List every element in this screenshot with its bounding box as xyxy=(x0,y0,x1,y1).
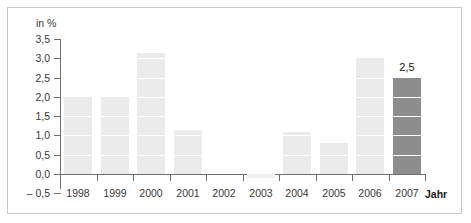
x-axis-tick xyxy=(316,174,317,181)
bar-band-overlay xyxy=(320,143,348,174)
bar xyxy=(101,97,129,174)
bar-band-overlay xyxy=(356,58,384,174)
y-axis-label: 2,0 xyxy=(10,92,50,102)
x-axis-label: 2005 xyxy=(314,188,354,199)
x-axis-tick xyxy=(389,174,390,181)
y-axis-tick xyxy=(54,155,61,156)
y-axis-label: 2,5 xyxy=(10,73,50,83)
bar-chart: in % Jahr 3,53,02,52,01,51,00,50,0– 0,5 … xyxy=(8,8,463,215)
x-axis-label: 1999 xyxy=(95,188,135,199)
x-axis-tick xyxy=(206,174,207,181)
bar xyxy=(356,58,384,174)
y-axis-label: 1,5 xyxy=(10,111,50,121)
bar-band-overlay xyxy=(137,53,165,175)
y-axis-tick xyxy=(54,135,61,136)
x-axis-label: 1998 xyxy=(58,188,98,199)
x-axis-tick xyxy=(133,174,134,181)
x-axis-label: 2007 xyxy=(387,188,427,199)
y-axis-line xyxy=(60,39,61,189)
x-axis-tick xyxy=(425,174,426,181)
bar xyxy=(283,132,311,174)
y-axis-tick xyxy=(54,97,61,98)
y-axis-label: 3,0 xyxy=(10,53,50,63)
y-axis-tick xyxy=(54,39,61,40)
x-axis-tick xyxy=(170,174,171,181)
y-axis-label: – 0,5 xyxy=(10,188,50,198)
chart-frame: in % Jahr 3,53,02,52,01,51,00,50,0– 0,5 … xyxy=(7,7,462,214)
x-axis-label: 2003 xyxy=(241,188,281,199)
y-axis-label: 0,0 xyxy=(10,169,50,179)
bar-value-label: 2,5 xyxy=(384,62,430,73)
x-axis-label: 2000 xyxy=(131,188,171,199)
bar xyxy=(393,78,421,174)
x-axis-title: Jahr xyxy=(425,188,447,200)
x-axis-tick xyxy=(97,174,98,181)
x-axis-tick xyxy=(279,174,280,181)
y-axis-title: in % xyxy=(36,17,56,29)
x-axis-tick xyxy=(243,174,244,181)
bar-band-overlay xyxy=(283,132,311,174)
bar-band-overlay xyxy=(174,130,202,174)
bar-band-overlay xyxy=(101,97,129,174)
bar-band-overlay xyxy=(64,97,92,174)
y-axis-tick xyxy=(54,116,61,117)
y-axis-label: 3,5 xyxy=(10,34,50,44)
bar xyxy=(320,143,348,174)
y-axis-label: 1,0 xyxy=(10,130,50,140)
x-axis-label: 2004 xyxy=(277,188,317,199)
y-axis-tick xyxy=(54,78,61,79)
x-axis-tick xyxy=(60,174,61,181)
bar-band-overlay xyxy=(393,78,421,174)
bar-band-overlay xyxy=(247,174,275,178)
y-axis-label: 0,5 xyxy=(10,150,50,160)
bar xyxy=(174,130,202,174)
bar xyxy=(247,174,275,178)
x-axis-tick xyxy=(352,174,353,181)
x-axis-label: 2002 xyxy=(204,188,244,199)
y-axis-tick xyxy=(54,58,61,59)
bar xyxy=(137,53,165,175)
x-axis-label: 2001 xyxy=(168,188,208,199)
x-axis-label: 2006 xyxy=(350,188,390,199)
bar xyxy=(64,97,92,174)
